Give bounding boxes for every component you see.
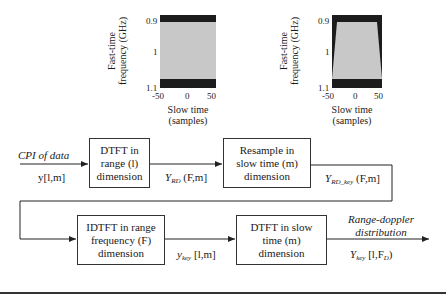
output-title: Range-dopplerdistribution — [346, 213, 416, 239]
signal-y-key-range-doppler: Ykey [l,FD) — [350, 248, 393, 265]
right-ytick-1: 1 — [325, 47, 330, 57]
right-xtick-0: 0 — [353, 91, 358, 101]
block-dtft-range: DTFT inrange (l)dimension — [89, 138, 150, 188]
left-xtick--50: -50 — [152, 91, 164, 101]
left-plot-image — [160, 15, 216, 88]
signal-y-rd-key: YRD_key (F,m] — [325, 172, 380, 189]
right-plot-xlabel: Slow time(samples) — [322, 104, 382, 126]
input-title: CPI of data — [18, 149, 69, 162]
right-xtick-50: 50 — [374, 91, 383, 101]
right-xtick--50: -50 — [322, 91, 334, 101]
right-ytick-0.9: 0.9 — [318, 16, 329, 26]
left-plot-xlabel: Slow time(samples) — [158, 104, 218, 126]
block-resample-slow-time: Resample inslow time (m)dimension — [223, 138, 311, 188]
left-xtick-50: 50 — [207, 91, 216, 101]
left-ytick-1: 1 — [153, 47, 158, 57]
right-plot-image — [332, 15, 382, 88]
block-idtft-range-frequency: IDTFT in rangefrequency (F)dimension — [77, 215, 165, 265]
left-ytick-0.9: 0.9 — [146, 16, 157, 26]
signal-y-key-time: ykey [l,m] — [177, 248, 216, 265]
signal-y-rd: YRD (F,m] — [165, 171, 207, 188]
block-dtft-slow-time: DTFT in slowtime (m)dimension — [236, 215, 327, 265]
input-signal: y[l,m] — [38, 171, 65, 184]
left-plot-ylabel: Fast-timefrequency (GHz) — [106, 6, 128, 96]
right-plot-ylabel: Fast-timefrequency (GHz) — [278, 6, 300, 96]
left-xtick-0: 0 — [185, 91, 190, 101]
